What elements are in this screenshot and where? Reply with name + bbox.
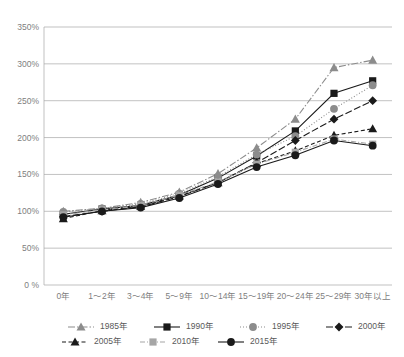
legend-item-2015年[interactable]: 2015年 [218,336,278,346]
series-line [63,101,372,217]
data-point-marker [368,56,377,64]
data-point-marker [330,137,338,145]
legend-item-2005年[interactable]: 2005年 [62,336,122,346]
data-point-marker [252,143,261,151]
legend-label: 2000年 [358,321,386,331]
data-point-marker [335,323,344,332]
data-point-marker [330,90,337,97]
y-axis-tick-label: 150% [17,169,39,179]
data-point-marker [98,207,106,215]
data-point-marker [59,213,67,221]
x-axis-tick-label: 15～19年 [238,291,275,301]
x-axis-tick-label: 1～2年 [88,291,115,301]
x-axis-tick-label: 5～9年 [166,291,193,301]
data-point-marker [368,124,377,132]
data-point-marker [253,151,261,159]
data-point-marker [330,115,339,124]
series-2000年 [59,96,377,221]
legend-label: 1995年 [272,321,300,331]
data-point-marker [137,204,145,212]
data-point-marker [291,151,299,159]
x-axis-tick-label: 3～4年 [127,291,154,301]
legend-label: 1990年 [186,321,214,331]
data-point-marker [149,338,156,345]
data-point-marker [368,96,377,105]
data-point-marker [175,194,183,202]
legend-item-1990年[interactable]: 1990年 [154,321,214,331]
chart-container: 0 %50%100%150%200%250%300%350%0年1～2年3～4年… [0,0,404,357]
data-point-marker [369,81,377,89]
x-axis-tick-label: 10～14年 [200,291,237,301]
data-point-marker [227,338,235,346]
legend-label: 2015年 [250,336,278,346]
data-point-marker [253,163,261,171]
legend-item-1985年[interactable]: 1985年 [68,321,128,331]
legend-item-2000年[interactable]: 2000年 [326,321,386,331]
series-line [63,85,372,212]
legend-label: 2010年 [172,336,200,346]
series-line [63,60,372,211]
x-axis-tick-label: 20～24年 [277,291,314,301]
y-axis-tick-label: 300% [17,59,39,69]
series-1995年 [59,81,376,216]
legend-item-1995年[interactable]: 1995年 [240,321,300,331]
x-axis-tick-label: 30年以上 [354,291,390,301]
data-point-marker [214,180,222,188]
y-axis-tick-label: 50% [22,243,39,253]
legend-label: 2005年 [94,336,122,346]
x-axis-tick-label: 25～29年 [316,291,353,301]
data-point-marker [330,105,338,113]
data-point-marker [163,323,170,330]
series-1985年 [59,56,377,215]
y-axis-tick-label: 0 % [24,280,39,290]
data-point-marker [249,323,257,331]
data-point-marker [369,142,377,150]
legend-label: 1985年 [100,321,128,331]
line-chart: 0 %50%100%150%200%250%300%350%0年1～2年3～4年… [0,0,404,357]
y-axis-tick-label: 200% [17,133,39,143]
y-axis-tick-label: 350% [17,22,39,32]
series-1990年 [60,77,377,218]
y-axis-tick-label: 100% [17,206,39,216]
x-axis-tick-label: 0年 [56,291,70,301]
legend-item-2010年[interactable]: 2010年 [140,336,200,346]
y-axis-tick-label: 250% [17,96,39,106]
